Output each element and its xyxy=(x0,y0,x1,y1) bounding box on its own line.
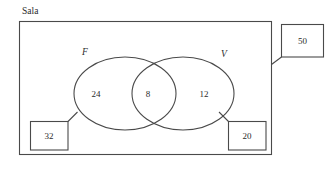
region-value-F-only: 24 xyxy=(92,89,102,99)
universe-label: Sala xyxy=(22,6,39,16)
callout-value-universe-total: 50 xyxy=(298,36,308,46)
region-value-intersection: 8 xyxy=(146,89,151,99)
set-F-label: F xyxy=(81,47,88,57)
callout-value-outside-left: 32 xyxy=(45,131,54,141)
callout-value-outside-right: 20 xyxy=(243,131,253,141)
leader-line-outside-left xyxy=(68,112,78,122)
set-V-label: V xyxy=(221,49,228,59)
venn-diagram-canvas: Sala F V 24 8 12 32 20 50 xyxy=(0,0,336,169)
leader-line-universe-total xyxy=(272,57,282,65)
set-F-ellipse xyxy=(74,57,176,130)
region-value-V-only: 12 xyxy=(200,89,209,99)
venn-diagram: Sala F V 24 8 12 32 20 50 xyxy=(0,0,336,169)
leader-line-outside-right xyxy=(219,112,229,122)
